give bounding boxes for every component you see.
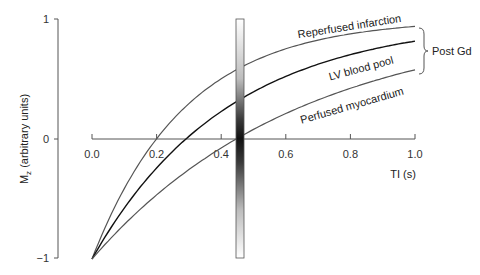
x-tick-0.8: 0.8: [343, 148, 358, 160]
y-axis: 1 0 −1 Mz (arbitrary units): [18, 13, 58, 264]
label-post-gd: Post Gd: [432, 45, 472, 57]
curve-lv-blood-pool: [92, 41, 415, 259]
x-tick-0: 0.0: [84, 148, 99, 160]
x-tick-1.0: 1.0: [407, 148, 422, 160]
label-reperfused-infarction: Reperfused infarction: [297, 12, 402, 40]
y-tick-minus1: −1: [36, 252, 49, 264]
x-tick-0.2: 0.2: [149, 148, 164, 160]
inversion-time-gradient-bar: [236, 19, 244, 258]
x-axis-title: TI (s): [390, 168, 416, 180]
chart-canvas: 1 0 −1 Mz (arbitrary units) 0.0 0.2 0.4 …: [0, 0, 480, 275]
brace-icon: [419, 28, 428, 74]
y-tick-1: 1: [43, 13, 49, 25]
label-perfused-myocardium: Perfused myocardium: [299, 85, 405, 126]
y-tick-0: 0: [43, 133, 49, 145]
x-tick-0.6: 0.6: [278, 148, 293, 160]
x-tick-0.4: 0.4: [214, 148, 229, 160]
x-axis: 0.0 0.2 0.4 0.6 0.8 1.0 TI (s): [84, 134, 422, 180]
y-axis-title: Mz (arbitrary units): [18, 94, 33, 184]
